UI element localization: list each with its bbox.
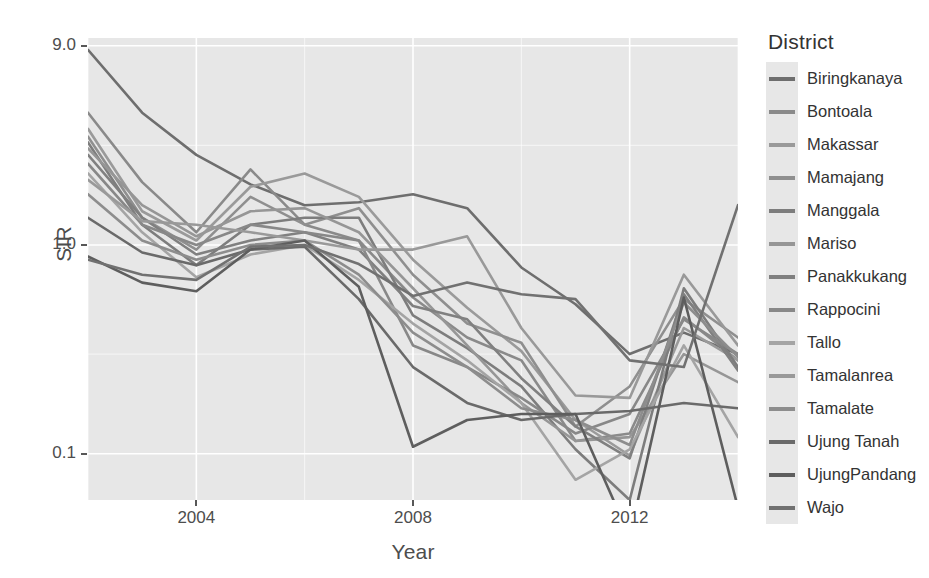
legend-key-swatch (766, 95, 798, 128)
y-tick-label: 1.0 (20, 234, 76, 254)
legend-key-swatch (766, 260, 798, 293)
legend-line-icon (769, 341, 795, 345)
x-tick-mark (195, 500, 197, 506)
legend-key-swatch (766, 491, 798, 524)
legend-key-swatch (766, 359, 798, 392)
legend-line-icon (769, 374, 795, 378)
legend-item[interactable]: Rappocini (766, 293, 929, 326)
legend-item-label: Mamajang (807, 168, 884, 187)
x-axis-title: Year (88, 540, 738, 564)
legend-item-label: Mariso (807, 234, 857, 253)
legend-key-swatch (766, 458, 798, 491)
legend-item[interactable]: Tallo (766, 326, 929, 359)
legend-item[interactable]: Panakkukang (766, 260, 929, 293)
y-tick-mark (81, 453, 87, 455)
legend-line-icon (769, 242, 795, 246)
legend-line-icon (769, 110, 795, 114)
x-tick-label: 2004 (161, 508, 231, 528)
legend-item-label: Tallo (807, 333, 841, 352)
legend-line-icon (769, 143, 795, 147)
legend-item-label: Manggala (807, 201, 879, 220)
legend-line-icon (769, 473, 795, 477)
legend-line-icon (769, 176, 795, 180)
legend-items: BiringkanayaBontoalaMakassarMamajangMang… (766, 62, 929, 524)
legend-item[interactable]: Makassar (766, 128, 929, 161)
legend-item-label: Makassar (807, 135, 879, 154)
legend-key-swatch (766, 128, 798, 161)
legend-item-label: Tamalate (807, 399, 874, 418)
legend-line-icon (769, 209, 795, 213)
legend-line-icon (769, 308, 795, 312)
legend-line-icon (769, 77, 795, 81)
legend-item[interactable]: Tamalanrea (766, 359, 929, 392)
legend-key-swatch (766, 62, 798, 95)
legend: District BiringkanayaBontoalaMakassarMam… (766, 30, 929, 524)
legend-item-label: Biringkanaya (807, 69, 902, 88)
legend-item[interactable]: Biringkanaya (766, 62, 929, 95)
legend-line-icon (769, 506, 795, 510)
legend-item[interactable]: Ujung Tanah (766, 425, 929, 458)
legend-key-swatch (766, 293, 798, 326)
legend-key-swatch (766, 227, 798, 260)
x-tick-mark (629, 500, 631, 506)
legend-line-icon (769, 440, 795, 444)
legend-item-label: Rappocini (807, 300, 880, 319)
legend-key-swatch (766, 194, 798, 227)
legend-item[interactable]: Wajo (766, 491, 929, 524)
plot-lines (88, 38, 738, 500)
legend-item-label: Tamalanrea (807, 366, 893, 385)
legend-item-label: UjungPandang (807, 465, 916, 484)
legend-item[interactable]: Tamalate (766, 392, 929, 425)
legend-item-label: Bontoala (807, 102, 872, 121)
legend-line-icon (769, 275, 795, 279)
x-tick-label: 2008 (378, 508, 448, 528)
legend-key-swatch (766, 161, 798, 194)
plot-panel (88, 38, 738, 500)
legend-item[interactable]: UjungPandang (766, 458, 929, 491)
y-tick-label: 9.0 (20, 35, 76, 55)
legend-line-icon (769, 407, 795, 411)
legend-item-label: Ujung Tanah (807, 432, 899, 451)
x-tick-mark (412, 500, 414, 506)
legend-key-swatch (766, 392, 798, 425)
legend-item-label: Wajo (807, 498, 844, 517)
y-tick-mark (81, 244, 87, 246)
legend-item[interactable]: Mamajang (766, 161, 929, 194)
y-tick-mark (81, 45, 87, 47)
y-tick-label: 0.1 (20, 443, 76, 463)
x-tick-label: 2012 (595, 508, 665, 528)
line-chart: SIR 9.01.00.1 200420082012 Year District… (0, 0, 929, 578)
legend-item[interactable]: Mariso (766, 227, 929, 260)
legend-item-label: Panakkukang (807, 267, 907, 286)
legend-key-swatch (766, 326, 798, 359)
legend-key-swatch (766, 425, 798, 458)
legend-item[interactable]: Bontoala (766, 95, 929, 128)
legend-item[interactable]: Manggala (766, 194, 929, 227)
legend-title: District (768, 30, 929, 54)
